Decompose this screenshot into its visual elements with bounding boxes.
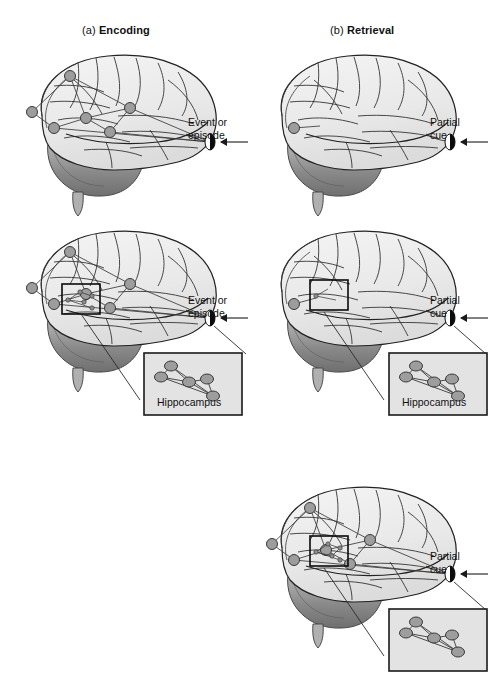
partial-label-line1: Partial [430,294,460,307]
partial-cue-arrow-icon [460,314,488,322]
event-or-episode-label-row2: Event or episode [188,294,227,319]
partial-label-line2: cue [430,563,460,576]
event-or-episode-label-row1: Event or episode [188,116,227,141]
partial-label-line2: cue [430,129,460,142]
partial-cue-label-row1: Partial cue [430,116,460,141]
hippocampus-inset-retrieval-reactivated [388,608,488,672]
column-index-a: (a) [82,24,96,36]
hippocampus-inset-retrieval: Hippocampus [388,352,488,416]
hippocampus-label-retrieval: Hippocampus [402,396,466,408]
column-title-encoding: (a) Encoding [82,24,150,36]
column-index-b: (b) [330,24,344,36]
cerebral-cortex [281,231,456,346]
partial-cue-arrow-icon [460,138,488,146]
event-label-line1: Event or [188,116,227,129]
hippocampus-inset-encoding: Hippocampus [143,352,243,416]
column-name-retrieval: Retrieval [347,24,394,36]
event-label-line2: episode [188,307,227,320]
column-title-retrieval: (b) Retrieval [330,24,394,36]
event-label-line1: Event or [188,294,227,307]
partial-label-line2: cue [430,307,460,320]
partial-label-line1: Partial [430,116,460,129]
hippocampus-label-encoding: Hippocampus [157,396,221,408]
column-name-encoding: Encoding [99,24,150,36]
hippocampus-inset-box [388,608,488,672]
cerebral-cortex [281,55,456,170]
partial-cue-label-row2: Partial cue [430,294,460,319]
partial-cue-arrow-icon [460,570,488,578]
event-label-line2: episode [188,129,227,142]
partial-cue-label-row3: Partial cue [430,550,460,575]
partial-label-line1: Partial [430,550,460,563]
